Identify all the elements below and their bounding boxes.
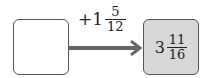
- arrow-shaft: [69, 46, 137, 50]
- input-answer-box[interactable]: [13, 19, 69, 75]
- output-box: 3 11 16: [143, 19, 199, 75]
- output-numerator: 11: [167, 33, 188, 47]
- output-fraction: 11 16: [167, 33, 188, 62]
- arrow-head-icon: [129, 40, 143, 56]
- output-mixed-number: 3 11 16: [155, 33, 188, 62]
- operation-label: + 1 5 12: [78, 2, 126, 36]
- operation-denominator: 12: [105, 20, 126, 34]
- operation-fraction: 5 12: [105, 5, 126, 34]
- output-whole: 3: [155, 38, 165, 57]
- operation-sign: +: [78, 9, 92, 29]
- output-denominator: 16: [167, 48, 188, 62]
- operation-whole: 1: [92, 9, 103, 29]
- operation-numerator: 5: [109, 5, 121, 19]
